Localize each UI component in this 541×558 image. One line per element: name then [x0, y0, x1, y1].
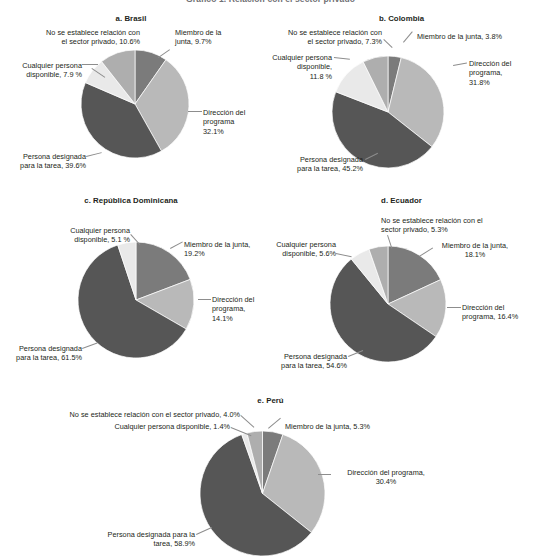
pie-svg-ecuador [330, 246, 446, 362]
leader-line [403, 31, 413, 42]
pie-chart-ecuador [330, 246, 446, 362]
leader-line [453, 63, 467, 66]
leader-line [383, 39, 392, 48]
label-ecuador-direccion-programa: Dirección del programa, 16.4% [462, 303, 532, 322]
label-rd-persona-designada: Persona designada para la tarea, 61.5% [0, 344, 82, 363]
panel-brasil: a. Brasil No se establece relación con e… [0, 14, 262, 194]
label-peru-no-se-establece: No se establece relación con el sector p… [20, 410, 240, 419]
pie-chart-brasil [81, 50, 189, 158]
figure-title: Gráfico 1. Relación con el sector privad… [0, 0, 541, 4]
label-brasil-direccion-programa: Dirección del programa 32.1% [203, 108, 261, 136]
leader-line [318, 474, 331, 475]
label-ecuador-persona-designada: Persona designada para la tarea, 54.6% [253, 352, 347, 371]
label-peru-cualquier-persona: Cualquier persona disponible, 1.4% [48, 422, 230, 431]
panel-ecuador: d. Ecuador No se establece relación con … [262, 196, 541, 396]
panel-colombia: b. Colombia No se establece relación con… [262, 14, 541, 194]
pie-svg-republica-dominicana [78, 242, 194, 358]
panel-title-republica-dominicana: c. República Dominicana [0, 196, 262, 205]
leader-line [82, 64, 98, 65]
label-colombia-direccion-programa: Dirección del programa, 31.8% [469, 59, 531, 87]
label-ecuador-cualquier-persona: Cualquier persona disponible, 5.6% [254, 240, 336, 259]
label-ecuador-no-se-establece: No se establece relación con el sector p… [381, 216, 511, 235]
label-peru-direccion-programa: Dirección del programa, 30.4% [332, 468, 440, 487]
panel-republica-dominicana: c. República Dominicana Cualquier person… [0, 196, 262, 396]
label-brasil-miembro-junta: Miembro de la junta, 9.7% [175, 28, 245, 47]
label-brasil-cualquier-persona: Cualquier persona disponible, 7.9 % [0, 61, 82, 80]
leader-line [198, 299, 211, 300]
leader-line [447, 307, 461, 308]
label-rd-miembro-junta: Miembro de la junta, 19.2% [184, 240, 262, 259]
label-peru-persona-designada: Persona designada para la tarea, 58.9% [85, 530, 195, 549]
panel-peru: e. Perú No se establece relación con el … [0, 396, 541, 558]
panel-title-ecuador: d. Ecuador [262, 196, 541, 205]
pie-chart-peru [200, 431, 325, 556]
label-ecuador-miembro-junta: Miembro de la junta, 18.1% [434, 241, 516, 260]
panel-title-colombia: b. Colombia [262, 14, 541, 23]
label-peru-miembro-junta: Miembro de la junta, 5.3% [285, 422, 415, 431]
panel-title-brasil: a. Brasil [0, 14, 262, 23]
label-colombia-miembro-junta: Miembro de la junta, 3.8% [417, 32, 541, 41]
pie-chart-colombia [332, 56, 444, 168]
pie-svg-peru [200, 431, 325, 556]
label-rd-cualquier-persona: Cualquier persona disponible, 5.1 % [30, 226, 130, 245]
label-brasil-no-se-establece: No se establece relación con el sector p… [18, 28, 140, 47]
figure-root: Gráfico 1. Relación con el sector privad… [0, 0, 541, 558]
label-colombia-persona-designada: Persona designada para la tarea, 45.2% [253, 155, 363, 174]
panel-title-peru: e. Perú [0, 396, 541, 405]
label-rd-direccion-programa: Dirección del programa, 14.1% [212, 295, 262, 323]
leader-line [268, 418, 281, 429]
pie-svg-colombia [332, 56, 444, 168]
pie-chart-republica-dominicana [78, 242, 194, 358]
label-colombia-no-se-establece: No se establece relación con el sector p… [260, 28, 382, 47]
pie-svg-brasil [81, 50, 189, 158]
leader-line [240, 415, 254, 428]
leader-line [188, 111, 202, 112]
label-brasil-persona-designada: Persona designada para la tarea, 39.6% [2, 152, 86, 171]
label-colombia-cualquier-persona: Cualquier persona disponible, 11.8 % [254, 53, 332, 81]
